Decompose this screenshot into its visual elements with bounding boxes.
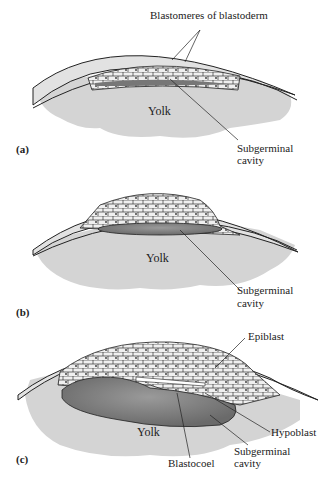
subgerminal-label-a-line2: cavity [237,154,264,166]
hypoblast-label: Hypoblast [271,426,316,438]
subgerminal-label-a-line1: Subgerminal [237,142,293,154]
panel-a [33,30,297,140]
panel-label-c: (c) [16,453,28,465]
subgerminal-label-c-line2: cavity [234,457,261,469]
yolk-label-c: Yolk [137,425,160,440]
pointer-line [185,30,200,62]
blastocoel-label: Blastocoel [168,457,214,469]
yolk-label-a: Yolk [148,104,171,119]
epiblast-label: Epiblast [248,330,284,342]
subgerminal-cavity-b [98,223,222,235]
panel-label-b: (b) [16,306,29,318]
subgerminal-label-b-line1: Subgerminal [237,284,293,296]
yolk-label-b: Yolk [146,251,169,266]
panel-b [33,194,298,290]
panel-label-a: (a) [16,143,29,155]
blastomeres-label: Blastomeres of blastoderm [150,9,268,21]
embryo-cleavage-diagram [0,0,332,482]
subgerminal-label-c-line1: Subgerminal [234,445,290,457]
panel-c [18,338,318,458]
subgerminal-label-b-line2: cavity [237,297,264,309]
pointer-line [172,30,200,60]
